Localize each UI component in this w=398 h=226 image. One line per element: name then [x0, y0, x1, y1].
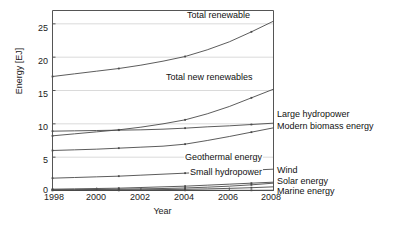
x-tick-label-1998: 1998	[44, 192, 64, 202]
series-label-large-hydropower: Large hydropower	[277, 110, 350, 119]
y-tick-label-10: 10	[28, 123, 48, 132]
x-axis-title: Year	[52, 206, 273, 216]
series-label-wind: Wind	[277, 166, 298, 175]
y-tick-label-25: 25	[28, 24, 48, 33]
chart-figure: Energy [EJ] Year 25 20 15 10 5 0 1998 20…	[0, 0, 398, 226]
x-tick-label-2004: 2004	[174, 192, 194, 202]
y-tick-label-15: 15	[28, 90, 48, 99]
y-tick-label-20: 20	[28, 57, 48, 66]
y-axis-title: Energy [EJ]	[14, 26, 24, 116]
x-tick-label-2002: 2002	[130, 192, 150, 202]
x-tick-label-2000: 2000	[86, 192, 106, 202]
annotation-small-hydropower: Small hydropower	[189, 168, 263, 177]
annotation-total-new-renewables: Total new renewables	[165, 73, 254, 82]
series-label-marine-energy: Marine energy	[277, 187, 335, 196]
y-tick-label-5: 5	[28, 156, 48, 165]
x-tick-label-2006: 2006	[218, 192, 238, 202]
series-label-modern-biomass-energy: Modern biomass energy	[277, 122, 374, 131]
annotation-total-renewable: Total renewable	[186, 11, 251, 20]
annotation-geothermal-energy: Geothermal energy	[184, 153, 263, 162]
